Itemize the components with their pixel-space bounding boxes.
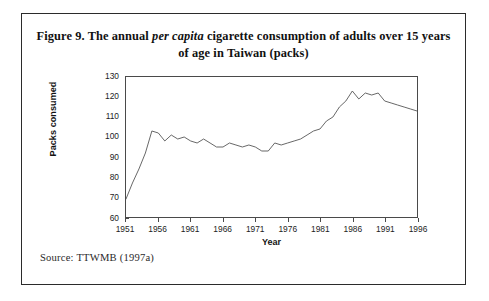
consumption-line-series	[126, 77, 417, 217]
x-axis-label: Year	[125, 237, 418, 247]
x-tick-mark-1991	[385, 218, 386, 222]
x-tick-mark-1981	[320, 218, 321, 222]
x-tick-mark-1951	[125, 218, 126, 222]
x-tick-mark-1956	[158, 218, 159, 222]
y-tick-130: 130	[93, 71, 119, 81]
x-tick-mark-1986	[353, 218, 354, 222]
chart-plot-wrapper: Packs consumed 60708090100110120130 1951…	[22, 62, 467, 252]
x-tick-mark-1976	[288, 218, 289, 222]
x-tick-mark-1961	[190, 218, 191, 222]
y-tick-60: 60	[93, 213, 119, 223]
figure-title: Figure 9. The annual per capita cigarett…	[36, 28, 451, 61]
x-tick-mark-1996	[418, 218, 419, 222]
y-tick-100: 100	[93, 131, 119, 141]
y-tick-120: 120	[93, 91, 119, 101]
y-tick-110: 110	[93, 111, 119, 121]
x-tick-1996: 1996	[398, 224, 438, 234]
figure-frame: Figure 9. The annual per capita cigarett…	[21, 13, 466, 285]
y-axis-tick-labels: 60708090100110120130	[91, 62, 119, 242]
x-tick-mark-1971	[255, 218, 256, 222]
figure-title-italic: per capita	[152, 29, 204, 43]
y-tick-70: 70	[93, 192, 119, 202]
y-axis-label: Packs consumed	[48, 60, 58, 178]
y-tick-80: 80	[93, 172, 119, 182]
x-tick-mark-1966	[223, 218, 224, 222]
source-note: Source: TTWMB (1997a)	[40, 252, 154, 263]
figure-title-suffix: cigarette consumption of adults over 15 …	[178, 29, 450, 60]
figure-title-prefix: Figure 9. The annual	[37, 29, 153, 43]
plot-area	[125, 76, 418, 218]
y-tick-90: 90	[93, 152, 119, 162]
